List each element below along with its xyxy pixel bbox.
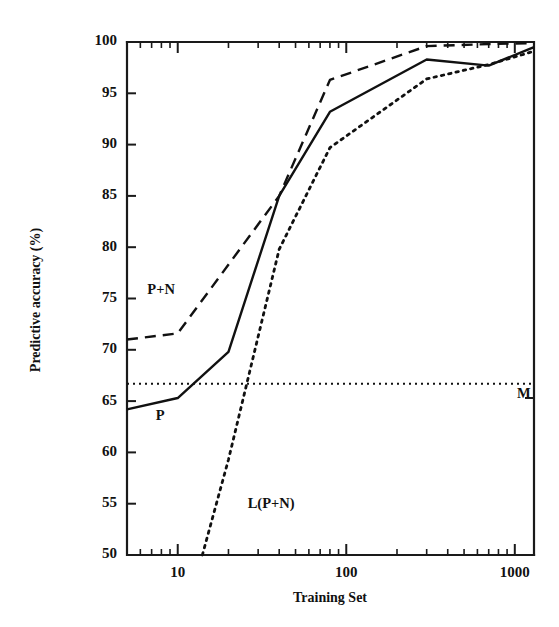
y-tick-label: 100 [95,32,118,48]
y-tick-label: 60 [102,443,117,459]
x-tick-label: 1000 [500,564,530,580]
y-tick-label: 75 [102,289,117,305]
x-tick-label: 10 [170,564,185,580]
predictive-accuracy-chart: 50556065707580859095100 101001000 P+NPL(… [0,0,559,627]
annotation-label-l-p-n: L(P+N) [248,495,295,512]
y-axis-title: Predictive accuracy (%) [28,227,44,372]
x-tick-label: 100 [335,564,358,580]
y-tick-label: 95 [102,84,117,100]
y-tick-label: 70 [102,340,117,356]
annotation-label-p-n: P+N [147,281,175,297]
chart-background [0,0,559,627]
y-tick-label: 85 [102,186,117,202]
x-axis-title: Training Set [293,590,367,605]
y-tick-label: 80 [102,238,117,254]
y-tick-label: 50 [102,545,117,561]
annotation-label-m: M [517,385,531,401]
y-tick-label: 55 [102,494,117,510]
y-tick-label: 90 [102,135,117,151]
y-tick-label: 65 [102,392,117,408]
annotation-label-p: P [156,407,165,423]
